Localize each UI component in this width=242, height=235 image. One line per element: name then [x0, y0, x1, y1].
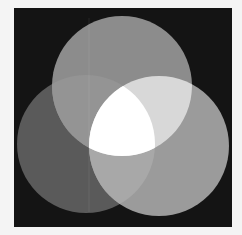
venn-diagram — [0, 0, 242, 235]
venn-svg — [0, 0, 242, 235]
